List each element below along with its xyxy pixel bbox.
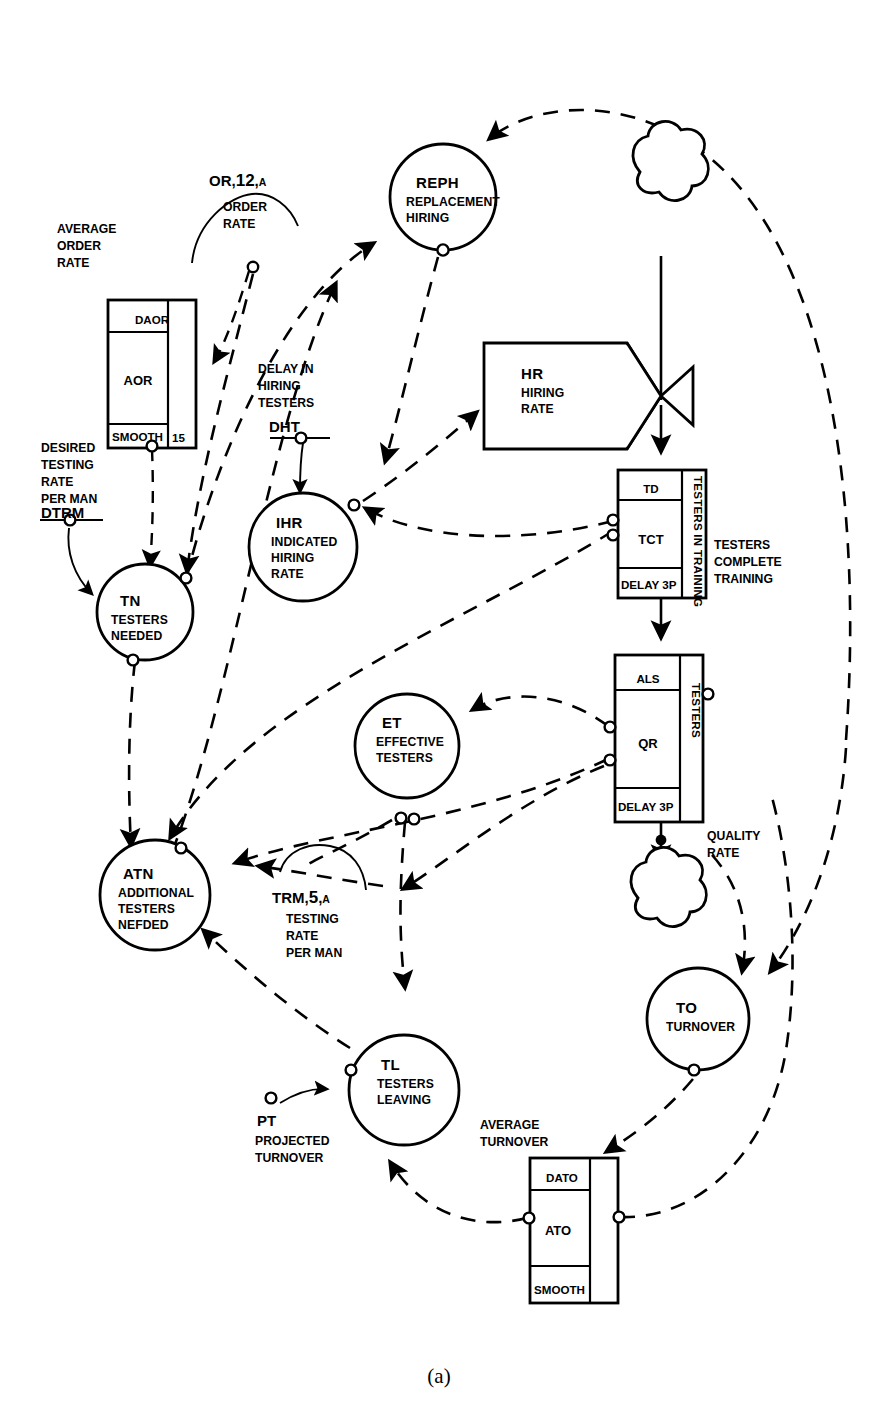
connector-dot-et-b [409,814,420,825]
ato-top-label: DATO [546,1171,578,1184]
system-dynamics-diagram: AVERAGE ORDER RATE DAOR AOR SMOOTH 15 OR… [0,0,878,1411]
svg-text:TL: TL [381,1056,400,1073]
link-reph-to-ihr [385,257,438,462]
link-aor-to-tn [150,449,153,566]
aor-top-label: DAOR [135,313,170,326]
connector-dot-qr-b [605,755,616,766]
connector-dot-quality [656,835,667,846]
svg-text:REPLACEMENT: REPLACEMENT [406,195,500,209]
svg-text:RATE: RATE [521,402,554,416]
node-circle-to [647,968,749,1070]
connector-dot-testers [703,689,714,700]
connector-dot-reph [437,244,448,255]
svg-text:REPH: REPH [416,174,459,191]
svg-text:HIRING: HIRING [258,379,301,393]
aor-bottom-label: SMOOTH [112,430,163,443]
link-to-to-ato [606,1079,693,1152]
link-tn-to-atn [129,661,135,846]
link-et-to-trm [303,820,392,868]
svg-text:COMPLETE: COMPLETE [714,555,782,569]
connector-dot-to [689,1065,700,1076]
aor-center-label: AOR [124,373,154,388]
svg-text:HIRING: HIRING [271,551,314,565]
aux-label-trm: TRM,5,A TESTING RATE PER MAN [272,888,342,960]
connector-dot-tn-bottom [128,655,139,666]
link-ihr-to-hr [363,412,477,501]
svg-text:ADDITIONAL: ADDITIONAL [118,886,195,900]
connector-dot-ihr [349,500,360,511]
aux-label-dtrm: DESIRED TESTING RATE PER MAN DTRM [41,441,97,521]
link-qr-to-et [472,697,608,726]
svg-text:TESTERS: TESTERS [258,396,314,410]
svg-text:TURNOVER: TURNOVER [480,1135,549,1149]
svg-text:TRAINING: TRAINING [714,572,773,586]
svg-text:TESTING: TESTING [41,458,94,472]
svg-text:TESTERS: TESTERS [377,1077,434,1091]
svg-text:IHR: IHR [276,514,303,531]
svg-text:RATE: RATE [57,256,89,270]
connector-dot-qr-a [605,722,616,733]
svg-text:PT: PT [257,1112,276,1129]
link-pt-to-tl [280,1089,327,1103]
tct-center-label: TCT [638,532,663,547]
label-ato-title: AVERAGE TURNOVER [480,1118,549,1149]
link-tct-to-ihr [365,508,613,536]
svg-text:NEFDED: NEFDED [118,918,169,932]
connector-dot-tl [346,1065,357,1076]
svg-text:NEEDED: NEEDED [111,629,162,643]
svg-text:QUALITY: QUALITY [707,829,761,843]
aux-label-order-rate: OR,12,A ORDER RATE [209,171,267,231]
svg-text:OR,12,A: OR,12,A [209,171,267,190]
connector-dot-tct-a [608,515,619,526]
connector-dot-tct-b [608,530,619,541]
svg-text:ORDER: ORDER [57,239,101,253]
qr-top-label: ALS [636,672,659,685]
cloud-quality-rate [631,847,706,926]
svg-text:TESTERS: TESTERS [118,902,175,916]
svg-text:LEAVING: LEAVING [377,1093,431,1107]
qr-bottom-label: DELAY 3P [618,800,674,813]
link-quality-to-to [712,855,745,972]
svg-text:TESTERS: TESTERS [714,538,770,552]
tct-outflow-label: TESTERS COMPLETE TRAINING [714,538,782,586]
qr-side-label: TESTERS [690,683,703,738]
svg-text:DTRM: DTRM [41,504,84,521]
tct-side-label: TESTERS IN TRAINING [692,476,705,607]
link-dht-to-ihr [300,443,303,492]
figure-caption: (a) [427,1364,450,1388]
cloud-source [633,121,708,200]
svg-text:TRM,5,A: TRM,5,A [272,888,330,907]
svg-text:TURNOVER: TURNOVER [255,1151,324,1165]
svg-text:RATE: RATE [286,929,318,943]
link-et-to-tl [400,822,405,988]
svg-text:DESIRED: DESIRED [41,441,95,455]
node-circle-tn [97,564,193,660]
ato-center-label: ATO [545,1223,571,1238]
link-ato-to-tl [390,1162,527,1222]
connector-dot-tn-top [181,573,192,584]
connector-dot-atn [176,843,187,854]
qr-outflow-label: QUALITY RATE [707,829,761,860]
link-or-to-aor [214,271,249,362]
svg-text:TESTERS: TESTERS [376,751,433,765]
connector-dot-et-a [396,813,407,824]
link-dtrm-to-tn [68,528,92,594]
aux-label-dht: DELAY IN HIRING TESTERS DHT [258,362,314,435]
svg-text:ATN: ATN [123,865,154,882]
connector-dot-pt [266,1093,277,1104]
diagram-canvas: AVERAGE ORDER RATE DAOR AOR SMOOTH 15 OR… [0,0,878,1411]
link-outer-to-to [770,748,846,972]
svg-text:RATE: RATE [707,846,739,860]
svg-text:TURNOVER: TURNOVER [666,1020,735,1034]
svg-text:HIRING: HIRING [406,211,449,225]
svg-text:DHT: DHT [269,418,300,435]
connector-dot-ato-left [524,1213,535,1224]
svg-text:EFFECTIVE: EFFECTIVE [376,735,444,749]
svg-text:RATE: RATE [41,475,73,489]
aux-arc-trm [280,845,366,890]
svg-text:RATE: RATE [223,217,255,231]
ato-bottom-label: SMOOTH [534,1283,585,1296]
svg-text:ORDER: ORDER [223,200,267,214]
svg-text:TO: TO [676,999,697,1016]
svg-text:TESTERS: TESTERS [111,613,168,627]
